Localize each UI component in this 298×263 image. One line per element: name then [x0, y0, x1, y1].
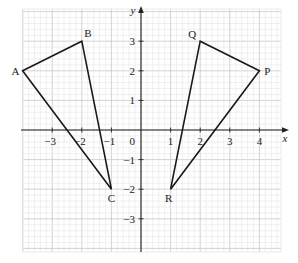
x-tick-label: 2	[197, 135, 203, 147]
y-axis-arrow-icon	[138, 6, 144, 13]
x-tick-label: 3	[227, 135, 233, 147]
labels: −3−2−11234321−1−2−30xyABCPQR	[12, 4, 288, 225]
x-tick-label: −3	[44, 135, 56, 147]
origin-label: 0	[130, 135, 136, 147]
x-tick-label: 1	[168, 135, 174, 147]
y-tick-label: −1	[123, 154, 135, 166]
vertex-label-q: Q	[188, 28, 196, 40]
triangle-ABC	[23, 41, 112, 189]
vertex-label-c: C	[108, 192, 115, 204]
y-tick-label: −2	[123, 183, 135, 195]
vertex-label-b: B	[84, 27, 91, 39]
axes	[21, 6, 289, 252]
y-tick-label: 3	[130, 35, 136, 47]
x-tick-label: −1	[104, 135, 116, 147]
coordinate-diagram: −3−2−11234321−1−2−30xyABCPQR	[0, 0, 298, 263]
vertex-label-r: R	[165, 192, 173, 204]
triangle-PQR	[171, 41, 260, 189]
x-tick-label: 4	[257, 135, 263, 147]
y-tick-label: 1	[130, 94, 136, 106]
x-tick-label: −2	[74, 135, 86, 147]
vertex-label-p: P	[264, 65, 270, 77]
y-tick-label: −3	[123, 213, 135, 225]
vertex-label-a: A	[12, 65, 20, 77]
y-axis-label: y	[130, 4, 136, 16]
x-axis-label: x	[282, 132, 288, 144]
y-tick-label: 2	[130, 65, 136, 77]
